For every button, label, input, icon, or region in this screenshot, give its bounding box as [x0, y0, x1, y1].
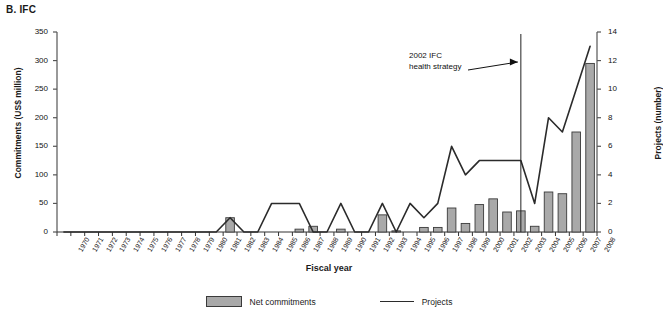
annotation-label: 2002 IFC health strategy — [409, 50, 461, 72]
legend-item-projects: Projects — [380, 297, 453, 307]
bar-1997 — [433, 227, 442, 232]
bar-2008 — [586, 63, 595, 232]
bar-1998 — [447, 208, 456, 232]
legend-label-projects: Projects — [422, 297, 453, 307]
bar-1993 — [378, 215, 387, 232]
projects-line — [64, 46, 590, 232]
bar-2001 — [489, 199, 498, 232]
bar-2005 — [544, 192, 553, 232]
bar-1999 — [461, 223, 470, 232]
legend-line-swatch-icon — [380, 301, 414, 302]
bar-1996 — [420, 227, 429, 232]
bar-2002 — [503, 212, 512, 232]
legend: Net commitments Projects — [0, 296, 658, 307]
bar-2004 — [530, 226, 539, 232]
annotation-line-1: 2002 IFC — [409, 50, 461, 61]
legend-item-net-commitments: Net commitments — [206, 296, 316, 307]
legend-bar-swatch-icon — [206, 296, 242, 307]
annotation-arrow-head-icon — [510, 59, 518, 66]
bar-1990 — [337, 229, 346, 232]
bar-2000 — [475, 205, 484, 232]
legend-label-net-commitments: Net commitments — [250, 297, 316, 307]
annotation-line-2: health strategy — [409, 61, 461, 72]
bar-2006 — [558, 194, 567, 232]
bar-2007 — [572, 132, 581, 232]
bar-1987 — [295, 229, 304, 232]
